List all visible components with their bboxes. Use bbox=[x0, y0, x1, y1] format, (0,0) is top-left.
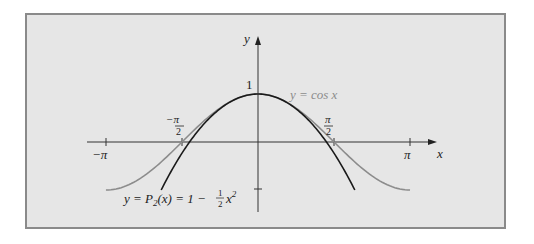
svg-text:2: 2 bbox=[176, 126, 181, 137]
y-axis-label: y bbox=[242, 31, 250, 46]
tick-label-pi: π bbox=[404, 147, 411, 162]
x-axis bbox=[87, 139, 437, 145]
svg-text:2: 2 bbox=[218, 199, 223, 209]
p2-curve-label: y = P2(x) = 1 − 1 2 x2 bbox=[122, 188, 237, 209]
chart-svg: y x −π π 1 −π 2 π 2 y = cos x y = P2(x) … bbox=[0, 0, 534, 244]
y-axis bbox=[255, 36, 261, 212]
cos-curve-label: y = cos x bbox=[288, 87, 338, 102]
x-axis-arrow-icon bbox=[428, 139, 437, 145]
tick-label-half-pi: π 2 bbox=[324, 113, 333, 137]
svg-text:x2: x2 bbox=[225, 189, 237, 206]
svg-text:π: π bbox=[325, 113, 331, 125]
tick-label-one: 1 bbox=[246, 77, 253, 92]
y-axis-arrow-icon bbox=[255, 36, 261, 45]
tick-label-neg-pi: −π bbox=[92, 147, 108, 162]
svg-text:−π: −π bbox=[166, 113, 179, 125]
tick-label-neg-half-pi: −π 2 bbox=[166, 113, 184, 137]
svg-text:y = P2(x) = 1 −: y = P2(x) = 1 − bbox=[122, 191, 206, 208]
x-axis-label: x bbox=[436, 146, 443, 161]
svg-text:2: 2 bbox=[326, 126, 331, 137]
svg-text:1: 1 bbox=[218, 188, 223, 198]
